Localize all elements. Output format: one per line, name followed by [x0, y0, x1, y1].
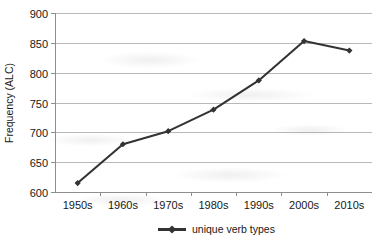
x-axis-tick-labels: 1950s1960s1970s1980s1990s2000s2010s [63, 199, 365, 211]
x-tick-label: 1990s [244, 199, 274, 211]
y-tick-label: 750 [30, 98, 48, 110]
chart-legend: unique verb types [158, 223, 275, 235]
x-tick-label: 2010s [334, 199, 364, 211]
y-axis-tick-marks [51, 14, 55, 193]
y-tick-label: 900 [30, 8, 48, 20]
y-tick-label: 800 [30, 68, 48, 80]
x-tick-label: 1950s [63, 199, 93, 211]
chart-figure: 600650700750800850900 1950s1960s1970s198… [0, 0, 384, 248]
legend-label-unique-verb-types: unique verb types [192, 223, 275, 235]
line-chart: 600650700750800850900 1950s1960s1970s198… [0, 0, 384, 248]
y-axis-tick-labels: 600650700750800850900 [30, 8, 48, 199]
y-axis-title: Frequency (ALC) [3, 63, 15, 143]
x-tick-label: 1980s [199, 199, 229, 211]
plot-area-background [55, 13, 372, 192]
legend-marker-diamond [168, 225, 176, 233]
y-tick-label: 600 [30, 187, 48, 199]
x-tick-label: 2000s [289, 199, 319, 211]
y-tick-label: 850 [30, 38, 48, 50]
y-tick-label: 700 [30, 127, 48, 139]
x-tick-label: 1970s [153, 199, 183, 211]
x-tick-label: 1960s [108, 199, 138, 211]
y-tick-label: 650 [30, 157, 48, 169]
